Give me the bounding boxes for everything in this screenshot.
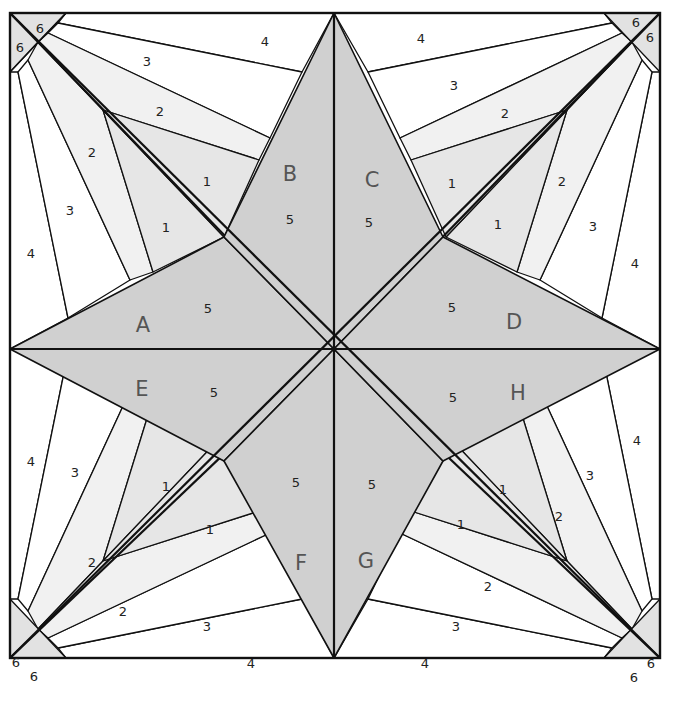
piece-number-label: 4 [261,34,269,49]
piece-number-label: 6 [646,30,654,45]
piece-number-label: 6 [36,21,44,36]
piece-number-label: 4 [247,656,255,671]
section-letter-g: G [358,549,374,573]
star-number-label: 5 [365,215,373,230]
section-letter-h: H [510,381,526,405]
piece-number-label: 4 [421,656,429,671]
piece-number-label: 2 [156,104,164,119]
piece-number-label: 1 [162,479,170,494]
star-number-label: 5 [286,212,294,227]
piece-number-label: 2 [555,509,563,524]
star-number-label: 5 [292,475,300,490]
piece-number-label: 2 [558,174,566,189]
piece-number-label: 1 [499,482,507,497]
piece-number-label: 2 [88,555,96,570]
star-number-label: 5 [204,301,212,316]
quilt-star-diagram: 6643221134664322113466431122346643112234… [0,0,674,703]
piece-number-label: 6 [16,40,24,55]
piece-number-label: 1 [162,220,170,235]
piece-number-label: 1 [457,517,465,532]
piece-number-label: 3 [71,465,79,480]
piece-number-label: 4 [631,256,639,271]
section-letter-d: D [506,310,522,334]
star-number-label: 5 [448,300,456,315]
piece-number-label: 3 [143,54,151,69]
piece-number-label: 3 [450,78,458,93]
piece-number-label: 6 [12,655,20,670]
piece-number-label: 4 [27,246,35,261]
piece-number-label: 4 [27,454,35,469]
piece-number-label: 1 [494,217,502,232]
piece-number-label: 2 [484,579,492,594]
piece-number-label: 6 [630,670,638,685]
star-number-label: 5 [449,390,457,405]
section-letter-f: F [295,551,307,575]
piece-number-label: 1 [448,176,456,191]
piece-number-label: 6 [30,669,38,684]
star-number-label: 5 [368,477,376,492]
section-letter-b: B [283,162,297,186]
piece-number-label: 1 [203,174,211,189]
piece-number-label: 6 [647,656,655,671]
star-number-label: 5 [210,385,218,400]
piece-number-label: 3 [586,468,594,483]
piece-number-label: 1 [206,522,214,537]
piece-number-label: 3 [452,619,460,634]
piece-number-label: 3 [589,219,597,234]
piece-number-label: 4 [633,433,641,448]
section-letter-c: C [365,168,380,192]
section-letter-e: E [135,377,148,401]
piece-number-label: 2 [88,145,96,160]
piece-number-label: 2 [501,106,509,121]
piece-number-label: 6 [632,15,640,30]
piece-number-label: 4 [417,31,425,46]
section-letter-a: A [136,313,151,337]
piece-number-label: 3 [203,619,211,634]
piece-number-label: 2 [119,604,127,619]
piece-number-label: 3 [66,203,74,218]
